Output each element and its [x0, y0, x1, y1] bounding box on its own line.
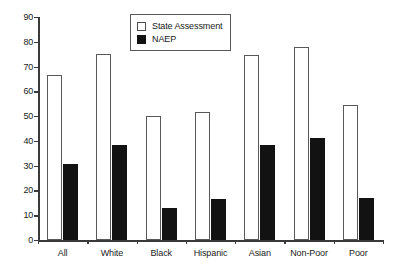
legend-item-naep[interactable]: NAEP — [137, 33, 222, 45]
bar-asian-state-assessment — [244, 55, 259, 240]
bar-white-naep — [112, 145, 127, 240]
x-axis-label-black: Black — [150, 248, 172, 258]
x-axis-tick — [235, 240, 236, 244]
bar-asian-naep — [260, 145, 275, 240]
bar-all-state-assessment — [47, 75, 62, 240]
x-axis-label-hispanic: Hispanic — [194, 248, 228, 258]
legend-label: State Assessment — [152, 22, 222, 31]
y-axis-tick-label: 70 — [23, 62, 33, 71]
y-axis-tick-label: 0 — [28, 236, 33, 245]
legend-item-state-assessment[interactable]: State Assessment — [137, 20, 222, 32]
y-axis-tick-label: 90 — [23, 13, 33, 22]
y-axis-tick — [34, 17, 38, 18]
x-axis-label-poor: Poor — [349, 248, 368, 258]
filled-square-icon — [137, 35, 146, 44]
bar-hispanic-state-assessment — [195, 112, 210, 240]
bar-poor-naep — [359, 198, 374, 240]
bar-white-state-assessment — [96, 54, 111, 240]
x-axis-tick — [383, 240, 384, 244]
x-axis-tick — [186, 240, 187, 244]
y-axis-tick-label: 10 — [23, 211, 33, 220]
y-axis-tick — [34, 141, 38, 142]
y-axis-tick — [34, 215, 38, 216]
y-axis-tick — [34, 190, 38, 191]
x-axis-label-all: All — [58, 248, 68, 258]
y-axis-tick — [34, 42, 38, 43]
y-axis-tick — [34, 116, 38, 117]
y-axis-tick — [34, 91, 38, 92]
y-axis-tick-label: 50 — [23, 112, 33, 121]
bar-black-state-assessment — [146, 116, 161, 240]
x-axis-line — [38, 240, 383, 242]
bar-non-poor-state-assessment — [294, 47, 309, 240]
chart-legend: State Assessment NAEP — [130, 14, 231, 51]
bar-black-naep — [162, 208, 177, 240]
y-axis-tick-label: 40 — [23, 136, 33, 145]
hollow-square-icon — [137, 22, 146, 31]
y-axis-tick — [34, 166, 38, 167]
bar-non-poor-naep — [310, 138, 325, 240]
bar-hispanic-naep — [211, 199, 226, 240]
y-axis-tick-label: 80 — [23, 37, 33, 46]
bar-chart: 0102030405060708090 AllWhiteBlackHispani… — [0, 0, 399, 271]
x-axis-tick — [38, 240, 39, 244]
x-axis-label-asian: Asian — [249, 248, 271, 258]
bar-poor-state-assessment — [343, 105, 358, 240]
y-axis-tick-label: 30 — [23, 161, 33, 170]
x-axis-tick — [137, 240, 138, 244]
x-axis-tick — [87, 240, 88, 244]
legend-label: NAEP — [152, 35, 176, 44]
bar-all-naep — [63, 164, 78, 240]
y-axis-tick-label: 60 — [23, 87, 33, 96]
x-axis-label-white: White — [101, 248, 124, 258]
x-axis-tick — [334, 240, 335, 244]
x-axis-label-non-poor: Non-Poor — [290, 248, 328, 258]
x-axis-tick — [284, 240, 285, 244]
y-axis-tick — [34, 67, 38, 68]
y-axis-tick-label: 20 — [23, 186, 33, 195]
